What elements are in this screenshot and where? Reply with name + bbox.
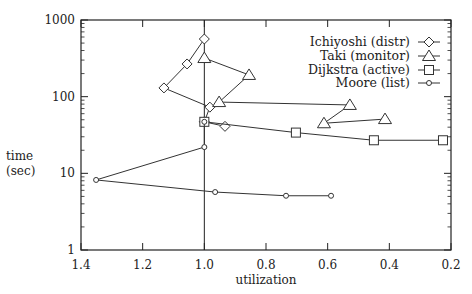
diamond-marker-icon bbox=[220, 121, 230, 131]
legend-item: Moore (list) bbox=[336, 75, 440, 90]
diamond-marker-icon bbox=[205, 102, 215, 112]
triangle-marker-icon bbox=[379, 113, 392, 124]
circle-marker-icon bbox=[329, 193, 334, 198]
x-tick-label: 1.0 bbox=[195, 258, 214, 272]
diamond-marker-icon bbox=[424, 37, 434, 47]
y-axis-label: time(sec) bbox=[6, 149, 35, 178]
y-axis-label-line: (sec) bbox=[6, 164, 35, 178]
diamond-marker-icon bbox=[199, 34, 209, 44]
legend-label: Moore (list) bbox=[336, 75, 410, 90]
square-marker-icon bbox=[369, 136, 378, 145]
square-marker-icon bbox=[438, 136, 447, 145]
triangle-marker-icon bbox=[243, 69, 256, 80]
y-tick-label: 1000 bbox=[44, 13, 75, 27]
legend-label: Taki (monitor) bbox=[320, 48, 410, 63]
legend-item: Ichiyoshi (distr) bbox=[310, 34, 440, 49]
circle-marker-icon bbox=[213, 190, 218, 195]
y-tick-label: 1 bbox=[67, 243, 75, 257]
line-chart: 1.41.21.00.80.60.40.21101001000 Ichiyosh… bbox=[0, 0, 472, 294]
series-ichiyoshi bbox=[159, 34, 230, 131]
circle-marker-icon bbox=[202, 119, 207, 124]
x-tick-label: 1.4 bbox=[71, 258, 90, 272]
circle-marker-icon bbox=[94, 177, 99, 182]
triangle-marker-icon bbox=[343, 99, 356, 110]
y-axis-label-line: time bbox=[6, 149, 33, 163]
y-tick-label: 10 bbox=[60, 166, 75, 180]
x-tick-label: 0.6 bbox=[318, 258, 337, 272]
x-tick-label: 0.4 bbox=[380, 258, 399, 272]
legend-label: Ichiyoshi (distr) bbox=[310, 34, 410, 49]
x-axis-label: utilization bbox=[235, 273, 296, 287]
y-tick-label: 100 bbox=[52, 90, 75, 104]
square-marker-icon bbox=[425, 66, 434, 75]
square-marker-icon bbox=[291, 128, 300, 137]
triangle-marker-icon bbox=[198, 52, 211, 63]
circle-marker-icon bbox=[427, 81, 432, 86]
x-tick-label: 0.8 bbox=[256, 258, 275, 272]
x-tick-label: 0.2 bbox=[441, 258, 460, 272]
circle-marker-icon bbox=[202, 145, 207, 150]
x-tick-label: 1.2 bbox=[133, 258, 152, 272]
series-line bbox=[164, 39, 225, 126]
legend: Ichiyoshi (distr)Taki (monitor)Dijkstra … bbox=[308, 34, 440, 90]
circle-marker-icon bbox=[284, 193, 289, 198]
triangle-marker-icon bbox=[423, 50, 436, 61]
legend-item: Taki (monitor) bbox=[320, 48, 440, 63]
